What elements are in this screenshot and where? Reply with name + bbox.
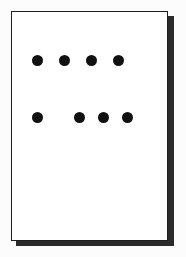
dot-empty — [59, 112, 70, 123]
dot-row-bottom — [12, 111, 167, 125]
dot-field — [12, 12, 167, 240]
dot-pattern-card[interactable] — [11, 11, 168, 241]
dot-filled — [113, 55, 124, 66]
dot-filled — [122, 112, 133, 123]
dot-row-top — [12, 54, 167, 68]
dot-filled — [74, 112, 85, 123]
dot-filled — [32, 112, 43, 123]
scene — [0, 0, 186, 257]
dot-filled — [59, 55, 70, 66]
dot-filled — [86, 55, 97, 66]
dot-filled — [98, 112, 109, 123]
dot-filled — [32, 55, 43, 66]
